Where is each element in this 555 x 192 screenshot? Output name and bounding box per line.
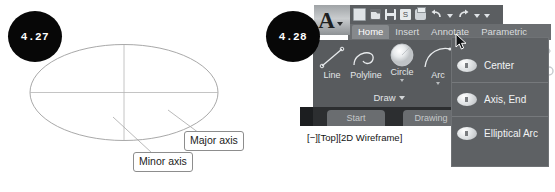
flyout-item-elliptical-arc[interactable]: Elliptical Arc [452,117,548,150]
new-icon[interactable] [353,8,366,21]
line-icon [315,45,349,71]
tool-arc[interactable]: Arc [421,45,455,85]
open-icon[interactable] [370,9,381,20]
tool-line-label: Line [315,71,349,80]
polyline-icon [349,45,383,71]
tool-polyline[interactable]: Polyline [349,45,383,80]
tool-circle[interactable]: Circle [385,42,419,82]
draw-panel-title-label: Draw [373,92,395,103]
ellipse-center-icon [456,57,478,74]
elliptical-arc-icon [456,125,478,142]
draw-panel-title[interactable]: Draw [313,93,465,103]
qat-customize-icon[interactable] [484,14,490,18]
major-axis-callout: Major axis [184,131,244,151]
figure-number-badge-4-28: 4.28 [266,11,320,62]
undo-icon[interactable] [430,9,443,20]
save-icon[interactable] [385,9,396,20]
chevron-down-icon [337,22,343,26]
ellipse-axis-end-icon [456,91,478,108]
tool-circle-caret-icon[interactable] [400,79,404,82]
viewport-label: [−][Top][2D Wireframe] [307,132,402,143]
flyout-item-center-label: Center [484,61,514,71]
quick-access-toolbar: S [348,5,503,24]
redo-dropdown-icon[interactable] [474,14,480,18]
autocad-logo-icon: A [318,9,335,32]
redo-icon[interactable] [457,9,470,20]
figure-number-badge-4-27: 4.27 [8,11,62,62]
minor-axis-callout: Minor axis [133,152,193,172]
flyout-item-axis-end[interactable]: Axis, End [452,83,548,117]
tool-arc-caret-icon[interactable] [436,82,440,85]
ellipse-flyout-menu[interactable]: Center Axis, End Elliptical Arc [451,37,549,167]
tool-line[interactable]: Line [315,45,349,80]
flyout-item-axis-end-label: Axis, End [484,95,526,105]
plot-icon[interactable] [415,9,426,20]
tool-arc-label: Arc [421,71,455,80]
arc-icon [421,45,455,71]
flyout-item-elliptical-arc-label: Elliptical Arc [484,129,538,139]
tab-home[interactable]: Home [352,25,389,40]
circle-icon [385,42,419,68]
save-as-icon[interactable]: S [400,9,411,20]
tool-polyline-label: Polyline [349,71,383,80]
tab-insert[interactable]: Insert [389,25,425,40]
chevron-down-icon[interactable] [399,96,405,100]
undo-dropdown-icon[interactable] [447,14,453,18]
figure-4-28: S A Home Insert Annotate Parametric [300,5,547,165]
file-tab-start[interactable]: Start [327,110,385,126]
minor-axis-leader [113,117,152,153]
mouse-cursor-icon [455,33,468,55]
